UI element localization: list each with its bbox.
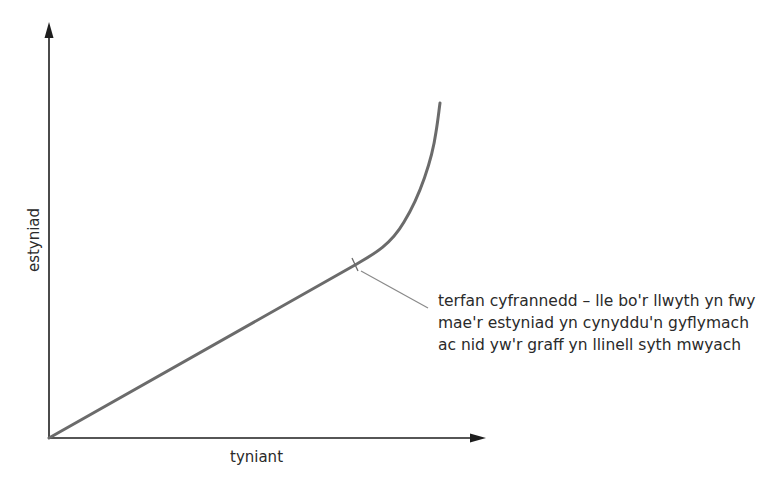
extension-curve <box>49 103 440 438</box>
x-axis-arrowhead-icon <box>470 434 486 443</box>
x-axis-label: tyniant <box>230 448 283 466</box>
y-axis-label: estyniad <box>25 208 43 272</box>
annotation-leader-line <box>361 271 428 308</box>
annotation-text: terfan cyfrannedd – lle bo'r llwyth yn f… <box>438 290 755 356</box>
annotation-line-3: ac nid yw'r graff yn llinell syth mwyach <box>438 334 755 356</box>
annotation-line-1: terfan cyfrannedd – lle bo'r llwyth yn f… <box>438 290 755 312</box>
y-axis-arrowhead-icon <box>45 22 54 38</box>
annotation-line-2: mae'r estyniad yn cynyddu'n gyflymach <box>438 312 755 334</box>
diagram-canvas <box>0 0 760 491</box>
